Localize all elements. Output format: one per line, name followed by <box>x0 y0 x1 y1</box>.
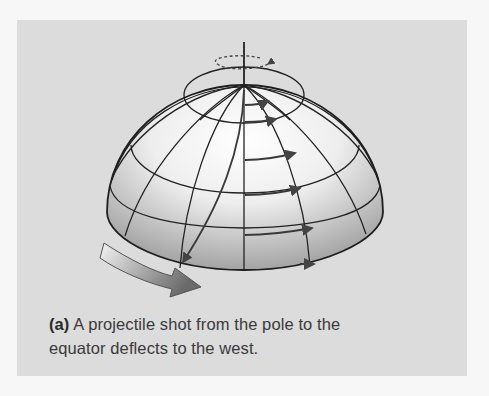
figure-caption: (a) A projectile shot from the pole to t… <box>49 312 449 360</box>
caption-line-2: equator deflects to the west. <box>49 339 258 357</box>
panel-label: (a) <box>49 315 69 333</box>
caption-line-1: A projectile shot from the pole to the <box>73 315 340 333</box>
hemisphere <box>107 85 383 270</box>
